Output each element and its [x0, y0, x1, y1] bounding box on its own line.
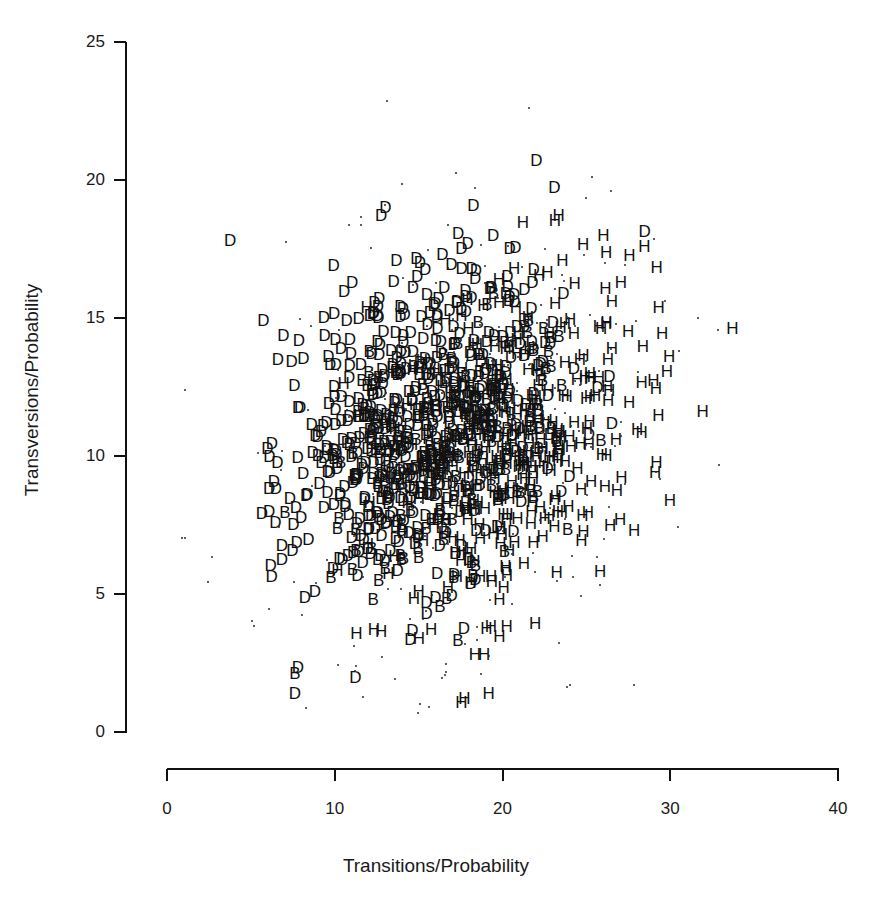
x-tick-10 [334, 769, 336, 781]
data-point-D: D [292, 448, 304, 465]
data-point-dot [346, 409, 348, 411]
data-point-H: H [485, 568, 497, 585]
data-point-dot [414, 506, 416, 508]
data-point-D: D [371, 306, 383, 323]
data-point-H: H [500, 510, 512, 527]
data-point-D: D [346, 274, 358, 291]
data-point-dot [455, 172, 457, 174]
data-point-dot [207, 581, 209, 583]
data-point-H: H [525, 514, 537, 531]
data-point-H: H [614, 510, 626, 527]
data-point-dot [717, 329, 719, 331]
data-point-dot [452, 299, 454, 301]
data-point-dot [549, 507, 551, 509]
data-point-dot [585, 360, 587, 362]
data-point-B: B [450, 389, 461, 406]
data-point-dot [521, 408, 523, 410]
data-point-H: H [485, 618, 497, 635]
data-point-dot [572, 576, 574, 578]
data-point-H: H [600, 243, 612, 260]
data-point-D: D [293, 332, 305, 349]
data-point-dot [257, 452, 259, 454]
data-point-dot [409, 401, 411, 403]
data-point-B: B [367, 591, 378, 608]
data-point-D: D [405, 323, 417, 340]
y-tick-label-25: 25 [55, 33, 105, 50]
data-point-dot [498, 326, 500, 328]
data-point-dot [460, 398, 462, 400]
data-point-dot [554, 387, 556, 389]
data-point-dot [299, 318, 301, 320]
data-point-dot [383, 415, 385, 417]
data-point-dot [400, 379, 402, 381]
data-point-B: B [413, 548, 424, 565]
data-point-D: D [286, 541, 298, 558]
data-point-dot [400, 588, 402, 590]
data-point-dot [484, 282, 486, 284]
data-point-dot [386, 100, 388, 102]
x-axis-title: Transitions/Probability [0, 855, 872, 877]
data-point-dot [655, 471, 657, 473]
data-point-H: H [637, 338, 649, 355]
data-point-dot [574, 325, 576, 327]
y-tick-label-15: 15 [55, 309, 105, 326]
data-point-dot [527, 468, 529, 470]
data-point-dot [449, 387, 451, 389]
data-point-D: D [390, 252, 402, 269]
data-point-D: D [385, 341, 397, 358]
data-point-B: B [546, 419, 557, 436]
data-point-B: B [395, 506, 406, 523]
data-point-dot [414, 481, 416, 483]
data-point-dot [464, 511, 466, 513]
data-point-dot [285, 511, 287, 513]
y-tick-25 [114, 41, 126, 43]
data-point-dot [324, 445, 326, 447]
data-point-dot [420, 501, 422, 503]
data-point-D: D [317, 417, 329, 434]
data-point-dot [521, 266, 523, 268]
data-point-dot [579, 384, 581, 386]
data-point-dot [409, 359, 411, 361]
data-point-B: B [366, 539, 377, 556]
data-point-dot [466, 416, 468, 418]
data-point-B: B [289, 664, 300, 681]
data-point-dot [544, 248, 546, 250]
data-point-dot [251, 620, 253, 622]
data-point-dot [451, 393, 453, 395]
data-point-B: B [333, 510, 344, 527]
data-point-dot [586, 494, 588, 496]
data-point-dot [614, 445, 616, 447]
data-point-B: B [368, 406, 379, 423]
data-point-dot [438, 302, 440, 304]
data-point-H: H [470, 462, 482, 479]
data-point-H: H [462, 511, 474, 528]
data-point-H: H [661, 362, 673, 379]
data-point-dot [497, 297, 499, 299]
data-point-D: D [297, 350, 309, 367]
data-point-dot [293, 581, 295, 583]
data-point-dot [511, 603, 513, 605]
data-point-dot [467, 456, 469, 458]
data-point-dot [540, 326, 542, 328]
data-point-H: H [439, 310, 451, 327]
data-point-D: D [261, 440, 273, 457]
data-point-dot [510, 361, 512, 363]
data-point-B: B [350, 520, 361, 537]
data-point-dot [425, 610, 427, 612]
data-point-B: B [486, 432, 497, 449]
data-point-D: D [518, 280, 530, 297]
data-point-H: H [664, 491, 676, 508]
data-point-H: H [551, 563, 563, 580]
data-point-dot [564, 518, 566, 520]
data-point-D: D [277, 327, 289, 344]
data-point-H: H [508, 533, 520, 550]
data-point-dot [566, 686, 568, 688]
data-point-dot [428, 400, 430, 402]
data-point-dot [507, 364, 509, 366]
data-point-dot [505, 424, 507, 426]
data-point-dot [480, 673, 482, 675]
data-point-dot [620, 435, 622, 437]
data-point-B: B [393, 427, 404, 444]
data-point-H: H [568, 275, 580, 292]
data-point-H: H [600, 314, 612, 331]
